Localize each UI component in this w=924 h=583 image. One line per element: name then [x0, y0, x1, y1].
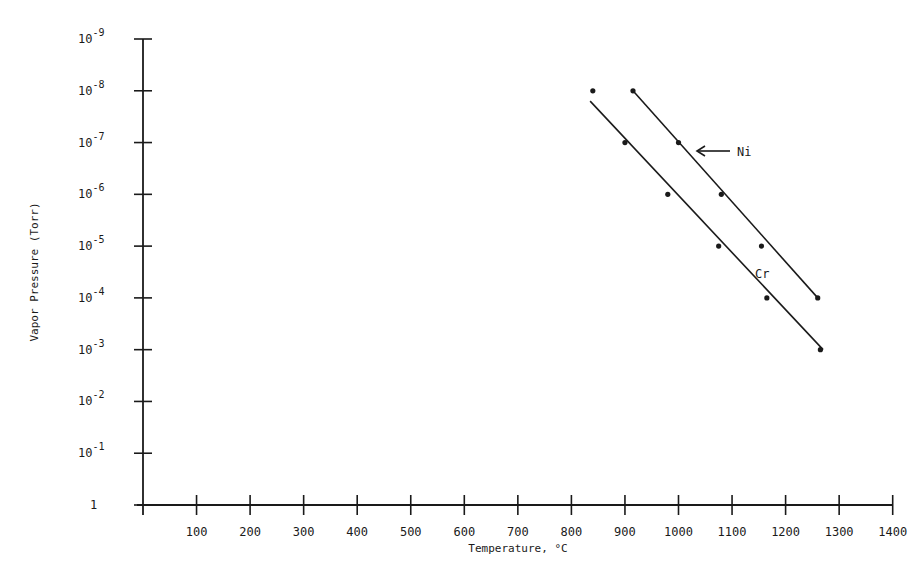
y-tick-label: 10-9 [78, 27, 105, 46]
x-tick-label: 900 [614, 525, 636, 539]
x-tick-label: 300 [293, 525, 315, 539]
series-cr [590, 88, 823, 352]
data-point [818, 347, 823, 352]
x-tick-label: 400 [346, 525, 368, 539]
x-tick-label: 200 [239, 525, 261, 539]
vapor-pressure-chart: 10-910-810-710-610-510-410-310-210-11 10… [0, 0, 924, 583]
y-tick-label: 10-5 [78, 234, 105, 253]
fit-line [633, 91, 818, 298]
y-tick-label: 10-8 [78, 79, 105, 98]
x-tick-label: 1300 [825, 525, 854, 539]
data-point [590, 88, 595, 93]
x-tick-label: 1400 [878, 525, 907, 539]
series-ni [630, 88, 820, 300]
y-tick-label: 10-4 [78, 286, 105, 305]
x-tick-label: 700 [507, 525, 529, 539]
ni-label: Ni [737, 145, 751, 159]
x-tick-label: 1100 [718, 525, 747, 539]
data-point [764, 295, 769, 300]
x-tick-label: 600 [453, 525, 475, 539]
x-tick-label: 100 [186, 525, 208, 539]
x-tick-label: 800 [561, 525, 583, 539]
x-tick-label: 1000 [664, 525, 693, 539]
x-axis: 1002003004005006007008009001000110012001… [137, 495, 907, 539]
data-point [759, 244, 764, 249]
x-axis-title: Temperature, °C [468, 542, 567, 555]
y-tick-label: 10-1 [78, 441, 105, 460]
fit-line [590, 101, 823, 350]
x-tick-label: 500 [400, 525, 422, 539]
data-point [676, 140, 681, 145]
y-tick-label: 1 [90, 498, 97, 512]
x-tick-label: 1200 [771, 525, 800, 539]
data-point [622, 140, 627, 145]
data-point [719, 192, 724, 197]
y-axis: 10-910-810-710-610-510-410-310-210-11 [78, 27, 152, 515]
y-axis-title: Vapor Pressure (Torr) [28, 202, 41, 341]
series-layer [590, 88, 823, 352]
cr-label: Cr [755, 267, 769, 281]
y-tick-label: 10-3 [78, 338, 105, 357]
data-point [665, 192, 670, 197]
y-tick-label: 10-7 [78, 131, 105, 150]
ni-annotation: Ni [697, 145, 751, 159]
y-tick-label: 10-2 [78, 389, 105, 408]
data-point [815, 295, 820, 300]
data-point [630, 88, 635, 93]
data-point [716, 244, 721, 249]
y-tick-label: 10-6 [78, 182, 105, 201]
